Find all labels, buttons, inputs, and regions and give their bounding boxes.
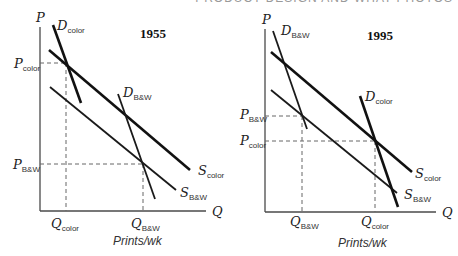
right-axis-q-label: Q <box>442 205 453 220</box>
right-demand-bw-label: DB&W <box>280 23 310 40</box>
right-supply-color-label: Scolor <box>415 166 442 183</box>
left-demand-bw-label: DB&W <box>122 85 152 102</box>
supply-demand-diagram: P Q 1955 Dcolor DB&W Scolor SB&W Pcolor <box>0 0 458 256</box>
right-axis-p-label: P <box>261 12 271 27</box>
left-year-title: 1955 <box>140 26 167 41</box>
right-supply-color-curve <box>271 52 412 172</box>
left-demand-color-label: Dcolor <box>56 18 85 35</box>
left-axis-q-label: Q <box>212 204 223 219</box>
left-q-bw-label: QB&W <box>131 216 160 233</box>
right-supply-bw-label: SB&W <box>404 187 432 204</box>
left-supply-color-label: Scolor <box>198 163 225 180</box>
right-q-color-label: Qcolor <box>361 214 389 231</box>
left-supply-color-curve <box>49 50 190 170</box>
left-q-color-label: Qcolor <box>51 216 79 233</box>
right-demand-color-curve <box>360 96 398 207</box>
panel-1995: P Q 1995 DB&W Dcolor Scolor SB&W PB&W <box>239 12 453 250</box>
left-supply-bw-label: SB&W <box>180 185 208 202</box>
right-q-bw-label: QB&W <box>290 214 319 231</box>
right-demand-color-label: Dcolor <box>364 89 393 106</box>
left-x-axis-title: Prints/wk <box>113 234 163 248</box>
left-supply-bw-curve <box>50 87 176 190</box>
right-p-color-label: Pcolor <box>239 133 266 150</box>
right-x-axis-title: Prints/wk <box>338 236 388 250</box>
left-p-bw-label: PB&W <box>12 157 40 174</box>
panel-1955: P Q 1955 Dcolor DB&W Scolor SB&W Pcolor <box>12 10 225 248</box>
right-year-title: 1995 <box>367 28 394 43</box>
right-p-bw-label: PB&W <box>239 107 267 124</box>
left-p-color-label: Pcolor <box>13 56 40 73</box>
left-axis-p-label: P <box>35 10 45 25</box>
